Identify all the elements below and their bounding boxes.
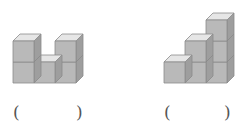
left-answer-blank[interactable] — [30, 104, 70, 122]
left-close-paren: ) — [76, 104, 83, 121]
cube-front-face — [164, 62, 185, 83]
left-open-paren: ( — [13, 104, 20, 121]
cube-front-face — [13, 62, 34, 83]
right-answer-blank[interactable] — [180, 104, 220, 122]
right-open-paren: ( — [164, 104, 171, 121]
right-close-paren: ) — [224, 104, 231, 121]
cube-front-face — [13, 41, 34, 62]
